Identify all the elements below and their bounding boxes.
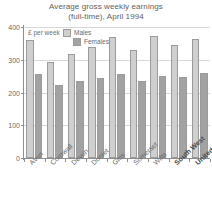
bar-females-cornwall (55, 85, 63, 158)
chart-title-line1: Average gross weekly earnings (49, 2, 163, 11)
x-axis-tick-mark (45, 159, 46, 162)
legend-item-males: Males (63, 28, 109, 37)
legend-label-males: Males (74, 29, 91, 37)
y-axis-label: £ per week (28, 29, 60, 36)
bar-group (47, 27, 63, 158)
x-axis-tick-mark (24, 159, 25, 162)
bar-females-somerset (138, 81, 146, 158)
x-axis-labels: AvonCornwallDevonDorsetGlosSomersetWilts… (24, 159, 210, 217)
legend-swatch-males-icon (63, 29, 71, 37)
bar-group (130, 27, 146, 158)
y-axis-tick-label: 200 (0, 90, 20, 97)
bar-males-avon (26, 40, 34, 158)
x-axis-tick-mark (127, 159, 128, 162)
bar-males-dorset (88, 47, 96, 158)
x-axis-tick-mark (148, 159, 149, 162)
bar-males-glos (109, 37, 117, 158)
bar-chart: Average gross weekly earnings (full-time… (0, 0, 212, 218)
bar-females-wilts (159, 76, 167, 158)
bar-males-south-west (171, 45, 179, 158)
chart-legend: Males Females (63, 28, 109, 46)
bar-group (26, 27, 42, 158)
bar-group (171, 27, 187, 158)
x-axis-tick-mark (169, 159, 170, 162)
bar-females-south-west (179, 77, 187, 158)
x-axis-tick-mark (107, 159, 108, 162)
bar-females-avon (35, 74, 43, 158)
x-axis-tick-mark (65, 159, 66, 162)
x-axis-tick-mark (189, 159, 190, 162)
bar-group (150, 27, 166, 158)
x-axis-tick-mark (210, 159, 211, 162)
y-axis-tick-label: 100 (0, 122, 20, 129)
bar-group (88, 27, 104, 158)
chart-title-line2: (full-time), April 1994 (0, 12, 212, 22)
y-axis-tick-label: 0 (0, 155, 20, 162)
y-axis-tick-label: 400 (0, 24, 20, 31)
bar-females-dorset (97, 78, 105, 158)
bar-group (68, 27, 84, 158)
bar-females-glos (117, 74, 125, 158)
bar-males-cornwall (47, 62, 55, 158)
y-axis-tick-label: 300 (0, 57, 20, 64)
chart-title: Average gross weekly earnings (full-time… (0, 2, 212, 22)
x-axis-tick-mark (86, 159, 87, 162)
bar-females-devon (76, 81, 84, 158)
legend-label-females: Females (84, 38, 109, 46)
bar-males-somerset (130, 50, 138, 158)
bar-group (109, 27, 125, 158)
legend-item-females: Females (73, 37, 109, 46)
legend-swatch-females-icon (73, 38, 81, 46)
plot-area (24, 27, 210, 158)
